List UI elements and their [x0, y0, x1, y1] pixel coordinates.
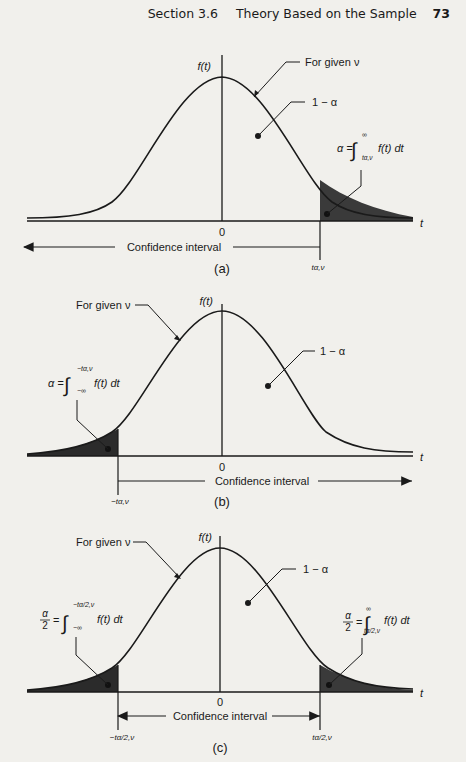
svg-text:α: α — [345, 610, 351, 621]
tail-integral-label: α = ∫ ∞ tα,ν f(t) dt — [337, 131, 405, 162]
density-curve — [27, 311, 413, 454]
svg-text:∫: ∫ — [61, 612, 69, 635]
svg-text:α: α — [42, 608, 48, 619]
svg-text:f(t) dt: f(t) dt — [97, 613, 124, 625]
svg-text:tα,ν: tα,ν — [362, 154, 373, 161]
origin-label: 0 — [219, 226, 225, 238]
textbook-page: Section 3.6 Theory Based on the Sample 7… — [0, 0, 466, 762]
svg-text:f(t) dt: f(t) dt — [384, 614, 411, 626]
x-axis-label: t — [420, 687, 424, 699]
curve-label: For given ν — [76, 299, 131, 311]
left-tail-shaded-area — [27, 429, 118, 456]
svg-text:f(t) dt: f(t) dt — [378, 142, 405, 154]
center-area-label: 1 − α — [312, 96, 338, 108]
confidence-interval-label: Confidence interval — [173, 710, 267, 722]
y-axis-label: f(t) — [200, 295, 214, 307]
panel-caption: (a) — [214, 261, 230, 276]
x-axis-label: t — [420, 217, 424, 229]
right-critical-value-label: tα/2,ν — [312, 733, 332, 742]
panel-a: f(t) t 0 For given ν 1 − α α = ∫ ∞ tα,ν … — [24, 55, 424, 276]
svg-text:∫: ∫ — [350, 139, 358, 162]
svg-text:=: = — [53, 614, 59, 626]
left-critical-value-label: −tα/2,ν — [110, 733, 134, 742]
right-tail-integral-label: α 2 = ∫ ∞ tα/2,ν f(t) dt — [343, 605, 411, 636]
panel-caption: (c) — [212, 740, 227, 755]
panel-caption: (b) — [214, 494, 230, 509]
svg-text:∞: ∞ — [362, 131, 367, 138]
curve-label: For given ν — [76, 536, 131, 548]
svg-text:tα/2,ν: tα/2,ν — [364, 627, 381, 634]
confidence-interval-label: Confidence interval — [127, 241, 221, 253]
tail-integral-label: α = ∫ −tα,ν −∞ f(t) dt — [48, 365, 121, 397]
svg-text:2: 2 — [42, 620, 48, 631]
left-tail-shaded-area — [27, 665, 118, 692]
center-area-label: 1 − α — [303, 563, 329, 575]
critical-value-label: −tα,ν — [111, 497, 129, 506]
y-axis-label: f(t) — [198, 60, 212, 72]
y-axis-label: f(t) — [199, 531, 213, 543]
svg-text:2: 2 — [345, 622, 351, 633]
origin-label: 0 — [217, 696, 223, 708]
svg-text:=: = — [356, 616, 362, 628]
critical-value-label: tα,ν — [311, 263, 324, 272]
svg-text:−tα/2,ν: −tα/2,ν — [73, 601, 95, 608]
confidence-interval-label: Confidence interval — [215, 475, 309, 487]
origin-label: 0 — [219, 461, 225, 473]
center-area-label: 1 − α — [320, 345, 346, 357]
panel-c: f(t) t 0 For given ν 1 − α α 2 = ∫ −tα/2… — [27, 531, 424, 755]
svg-text:∫: ∫ — [63, 374, 71, 397]
svg-text:−tα,ν: −tα,ν — [77, 365, 93, 372]
svg-text:−∞: −∞ — [77, 387, 86, 394]
svg-text:α =: α = — [48, 377, 64, 389]
curve-label: For given ν — [305, 56, 360, 68]
panel-b: f(t) t 0 For given ν 1 − α α = ∫ −tα,ν −… — [27, 295, 424, 509]
svg-text:∞: ∞ — [366, 605, 371, 612]
x-axis-label: t — [420, 451, 424, 463]
svg-text:f(t) dt: f(t) dt — [94, 377, 121, 389]
t-distribution-figure: f(t) t 0 For given ν 1 − α α = ∫ ∞ tα,ν … — [0, 0, 466, 762]
left-tail-integral-label: α 2 = ∫ −tα/2,ν −∞ f(t) dt — [40, 601, 124, 635]
svg-text:−∞: −∞ — [73, 624, 82, 631]
